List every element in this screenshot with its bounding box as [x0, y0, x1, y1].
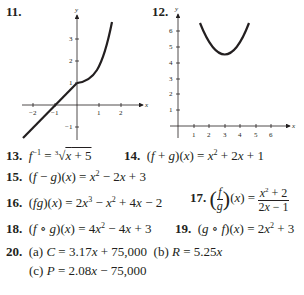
x-tick-label: 1 [192, 131, 196, 139]
answer-19: 19. (g ∘ f)(x) = 2x2 + 3 [175, 221, 294, 237]
x-tick-label: 3 [223, 131, 227, 139]
x-tick-label: 4 [238, 131, 242, 139]
problem-number-19: 19. [175, 221, 191, 236]
problem-number-14: 14. [124, 148, 140, 163]
x-axis-label: x [291, 122, 296, 130]
y-tick-label: 1 [169, 106, 173, 114]
y-tick-label: 2 [169, 90, 173, 98]
answer-14: 14. (f + g)(x) = x2 + 2x + 1 [124, 148, 264, 164]
x-tick-label: 6 [269, 131, 273, 139]
problem-number-15: 15. [6, 169, 22, 184]
answer-13: 13. f−1 = 3√x + 5 [6, 148, 92, 164]
x-tick-label: 2 [207, 131, 211, 139]
graph-12-plot: 1 2 3 4 5 6 6 5 4 3 2 1 x y [0, 0, 304, 150]
answer-16: 16. (fg)(x) = 2x3 − x2 + 4x − 2 [6, 195, 162, 211]
y-tick-label: 4 [169, 59, 173, 67]
problem-number-18: 18. [6, 221, 22, 236]
part-label-a: (a) [29, 244, 43, 259]
answer-15: 15. (f − g)(x) = x2 − 2x + 3 [6, 169, 146, 185]
answer-20ab: 20. (a) C = 3.17x + 75,000 (b) R = 5.25x [6, 244, 222, 260]
problem-number-20: 20. [6, 244, 22, 259]
problem-number-13: 13. [6, 148, 22, 163]
y-tick-label: 6 [169, 27, 173, 35]
problem-number-17: 17. [190, 190, 206, 205]
answer-20c: (c) P = 2.08x − 75,000 [29, 263, 147, 279]
answer-18: 18. (f ∘ g)(x) = 4x2 − 4x + 3 [6, 221, 151, 237]
x-tick-label: 5 [254, 131, 258, 139]
y-axis-label: y [174, 5, 179, 13]
y-tick-label: 5 [169, 43, 173, 51]
problem-number-16: 16. [6, 195, 22, 210]
y-tick-label: 3 [169, 75, 173, 83]
part-label-c: (c) [29, 263, 43, 278]
answer-17: 17. (fg)(x) = x2 + 22x − 1 [190, 184, 289, 214]
part-label-b: (b) [154, 244, 169, 259]
